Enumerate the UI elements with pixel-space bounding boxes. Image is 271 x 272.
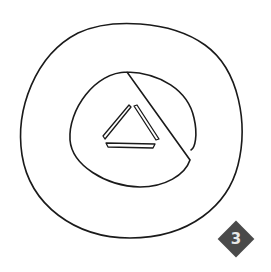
triangle	[103, 105, 159, 148]
outer-circle	[21, 24, 242, 238]
step-number-badge: 3	[218, 221, 254, 257]
badge-label: 3	[218, 221, 254, 257]
inner-circle	[70, 72, 196, 187]
